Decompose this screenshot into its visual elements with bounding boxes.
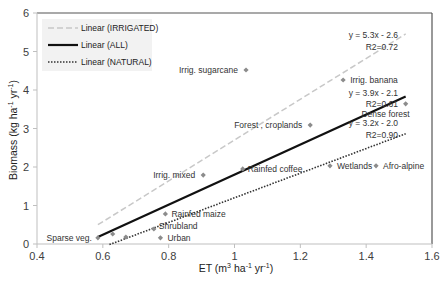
x-tick-label: 1.6 bbox=[424, 250, 439, 262]
trendline-equation: y = 3.9x - 2.1 bbox=[349, 88, 399, 98]
y-tick-label: 6 bbox=[23, 7, 29, 19]
x-axis-title-text: ET (m bbox=[199, 262, 228, 274]
data-point-label: Wetlands bbox=[337, 161, 372, 171]
y-axis-title-end: ) bbox=[7, 80, 19, 84]
y-tick-label: 0 bbox=[23, 238, 29, 250]
x-axis-title-mid2: yr bbox=[252, 262, 264, 274]
y-axis-title: Biomass (kg ha-1 yr-1) bbox=[7, 80, 19, 180]
data-point-label: Sparse veg. bbox=[47, 233, 92, 243]
y-tick-label: 5 bbox=[23, 46, 29, 58]
y-tick-label: 4 bbox=[23, 84, 29, 96]
scatter-chart: 0123456 0.40.60.811.21.41.6 Sparse veg.S… bbox=[0, 0, 444, 281]
data-point-label: Irrig. banana bbox=[350, 75, 398, 85]
x-axis-title-end: ) bbox=[270, 262, 274, 274]
legend-label: Linear (NATURAL) bbox=[81, 57, 152, 67]
trendline-r2: R2=0.90 bbox=[366, 130, 399, 140]
data-point-label: Forest , croplands bbox=[234, 120, 302, 130]
trendline-r2: R2=0.61 bbox=[366, 99, 399, 109]
x-tick-label: 0.8 bbox=[161, 250, 176, 262]
x-tick-label: 1.2 bbox=[293, 250, 308, 262]
data-point-label: Urban bbox=[167, 233, 190, 243]
x-tick-label: 0.4 bbox=[29, 250, 44, 262]
data-point-label: Afro-alpine bbox=[383, 161, 424, 171]
legend: Linear (IRRIGATED)Linear (ALL)Linear (NA… bbox=[42, 19, 158, 71]
data-point-label: Irrig. sugarcane bbox=[179, 65, 238, 75]
y-tick-label: 2 bbox=[23, 161, 29, 173]
data-point-label: Rainfed maize bbox=[171, 209, 226, 219]
y-axis-title-text: Biomass (kg ha bbox=[7, 107, 19, 180]
data-point-label: Rainfed coffee bbox=[248, 164, 303, 174]
trendline-equation: y = 5.3x - 2.6 bbox=[349, 30, 399, 40]
x-tick-label: 1 bbox=[231, 250, 237, 262]
legend-label: Linear (ALL) bbox=[81, 40, 128, 50]
x-tick-label: 1.4 bbox=[359, 250, 374, 262]
y-tick-label: 3 bbox=[23, 123, 29, 135]
x-axis-title: ET (m3 ha-1 yr-1) bbox=[199, 262, 274, 274]
y-axis-title-mid: yr bbox=[7, 89, 19, 101]
y-tick-label: 1 bbox=[23, 200, 29, 212]
data-point-label: Shrubland bbox=[159, 221, 198, 231]
trendline-equation: y = 3.2x - 2.0 bbox=[349, 118, 399, 128]
legend-label: Linear (IRRIGATED) bbox=[81, 23, 158, 33]
x-tick-label: 0.6 bbox=[95, 250, 110, 262]
data-point-label: Irrig. mixed bbox=[153, 170, 195, 180]
x-axis-title-mid: ha bbox=[231, 262, 246, 274]
trendline-r2: R2=0.72 bbox=[366, 42, 399, 52]
